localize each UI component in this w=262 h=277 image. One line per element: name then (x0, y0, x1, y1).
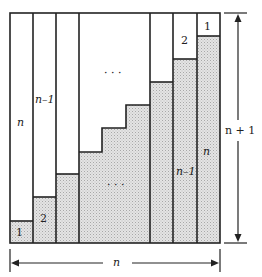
label-col2-bottom: 2 (40, 212, 47, 225)
label-mid-top-dots: · · · (104, 67, 121, 80)
arrow-right-icon (211, 260, 219, 267)
label-col5-top: 2 (181, 34, 188, 47)
staircase-diagram: n n–1 · · · 2 1 1 2 · · · n–1 n n + 1 n (0, 0, 262, 277)
label-col2-top: n–1 (35, 93, 55, 106)
label-mid-bottom-dots: · · · (107, 179, 124, 192)
label-col1-top: n (17, 116, 24, 129)
label-col6-bottom: n (203, 145, 210, 158)
shaded-col-5 (173, 59, 197, 243)
arrow-left-icon (11, 260, 19, 267)
shaded-col-4 (150, 82, 173, 243)
label-height-n-plus-1: n + 1 (225, 124, 255, 137)
arrow-down-icon (235, 234, 242, 242)
label-col5-bottom: n–1 (176, 165, 196, 178)
shaded-middle-block (79, 105, 150, 243)
shaded-col-6 (197, 36, 220, 243)
label-col1-bottom: 1 (16, 226, 23, 239)
shaded-col-3 (56, 174, 79, 243)
label-col6-top: 1 (204, 20, 211, 33)
label-width-n: n (113, 256, 120, 269)
arrow-up-icon (235, 14, 242, 22)
